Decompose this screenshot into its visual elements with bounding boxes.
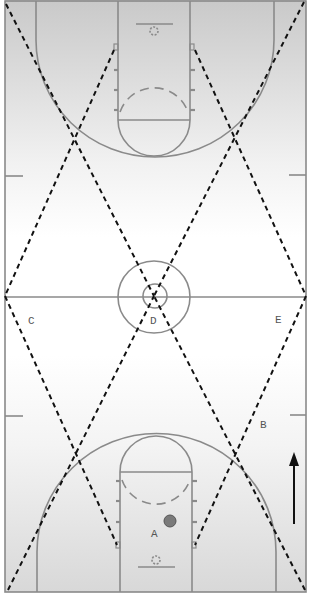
court-floor bbox=[5, 0, 306, 592]
ball bbox=[164, 515, 176, 527]
label-d: D bbox=[150, 316, 157, 327]
label-c: C bbox=[28, 316, 35, 327]
label-a: A bbox=[151, 529, 158, 540]
basketball-court-diagram bbox=[0, 0, 312, 605]
label-e: E bbox=[275, 315, 282, 326]
label-b: B bbox=[260, 420, 267, 431]
